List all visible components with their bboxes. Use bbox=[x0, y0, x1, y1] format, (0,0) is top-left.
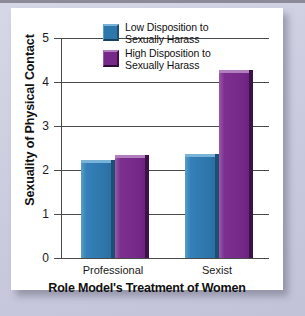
y-axis-line bbox=[61, 38, 62, 258]
y-tick-mark bbox=[54, 38, 61, 39]
blue-swatch-icon bbox=[103, 24, 119, 41]
bar-top bbox=[185, 154, 215, 157]
bar-side bbox=[249, 70, 253, 258]
y-tick-mark bbox=[54, 126, 61, 127]
legend-label-high: High Disposition to Sexually Harass bbox=[125, 48, 211, 71]
y-tick-label: 2 bbox=[29, 163, 49, 177]
y-tick-mark bbox=[54, 82, 61, 83]
bar-top bbox=[219, 70, 249, 73]
bar-professional-high bbox=[115, 158, 145, 258]
legend-item-high: High Disposition to Sexually Harass bbox=[103, 48, 211, 71]
y-tick-label: 3 bbox=[29, 119, 49, 133]
bar-sexist-low bbox=[185, 157, 215, 258]
y-tick-mark bbox=[54, 170, 61, 171]
chart-legend: Low Disposition to Sexually Harass High … bbox=[103, 22, 211, 74]
legend-label-low: Low Disposition to Sexually Harass bbox=[125, 22, 208, 45]
chart-panel: Sexuality of Physical Contact 012345 Pro… bbox=[11, 8, 283, 290]
bar-top bbox=[115, 155, 145, 158]
bar-professional-low bbox=[81, 163, 111, 258]
bar-face bbox=[81, 163, 111, 258]
bar-sexist-high bbox=[219, 73, 249, 258]
purple-swatch-icon bbox=[103, 50, 119, 67]
bar-face bbox=[185, 157, 215, 258]
x-category-label: Sexist bbox=[202, 264, 232, 276]
legend-item-low: Low Disposition to Sexually Harass bbox=[103, 22, 211, 45]
bar-side bbox=[145, 155, 149, 258]
figure-background: Sexuality of Physical Contact 012345 Pro… bbox=[0, 0, 305, 316]
y-tick-mark bbox=[54, 214, 61, 215]
x-category-label: Professional bbox=[83, 264, 144, 276]
y-tick-label: 4 bbox=[29, 75, 49, 89]
y-tick-label: 5 bbox=[29, 31, 49, 45]
y-tick-mark bbox=[54, 258, 61, 259]
y-tick-label: 0 bbox=[29, 251, 49, 265]
bar-face bbox=[115, 158, 145, 258]
x-axis-title: Role Model's Treatment of Women bbox=[11, 281, 283, 295]
top-rule bbox=[0, 0, 305, 3]
x-axis-line bbox=[61, 258, 269, 259]
bar-top bbox=[81, 160, 111, 163]
plot-area: Sexuality of Physical Contact 012345 Pro… bbox=[11, 8, 283, 290]
bar-face bbox=[219, 73, 249, 258]
y-tick-label: 1 bbox=[29, 207, 49, 221]
